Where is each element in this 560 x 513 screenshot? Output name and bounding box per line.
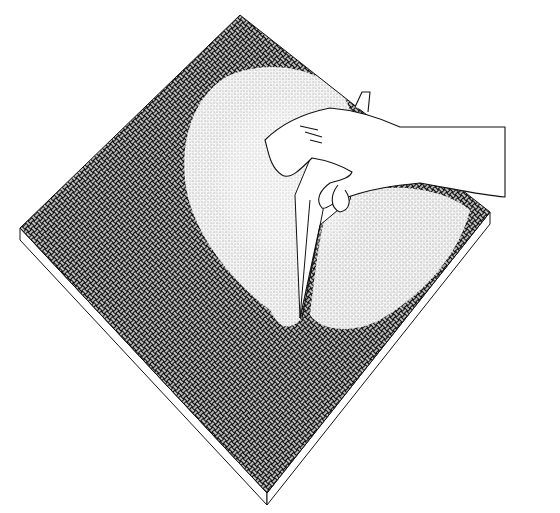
woven-surface — [20, 15, 490, 493]
illustration: hand peeling back a textured surface lay… — [0, 0, 560, 513]
